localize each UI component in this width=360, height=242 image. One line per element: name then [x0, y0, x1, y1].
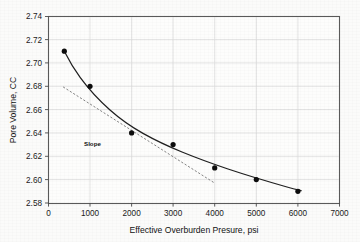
- x-tick-label: 3000: [164, 209, 183, 218]
- x-tick-label: 1000: [81, 209, 100, 218]
- y-tick-label: 2.70: [26, 59, 42, 68]
- data-point: [212, 165, 217, 170]
- data-point: [87, 84, 92, 89]
- data-point: [254, 177, 259, 182]
- x-tick-label: 4000: [206, 209, 225, 218]
- y-tick-label: 2.72: [26, 36, 42, 45]
- x-tick-label: 7000: [330, 209, 349, 218]
- y-tick-label: 2.68: [26, 82, 42, 91]
- pore-volume-vs-overburden-pressure-chart: 0 1000 2000 3000 4000 5000 6000 7000 2.5…: [0, 0, 360, 242]
- x-tick-label: 6000: [289, 209, 308, 218]
- y-tick-label: 2.64: [26, 129, 42, 138]
- x-axis-title: Effective Overburden Presure, psi: [130, 225, 259, 235]
- y-tick-label: 2.66: [26, 106, 42, 115]
- data-point: [171, 142, 176, 147]
- x-tick-label: 0: [46, 209, 51, 218]
- y-tick-label: 2.62: [26, 152, 42, 161]
- y-tick-label: 2.74: [26, 12, 42, 21]
- data-point: [129, 130, 134, 135]
- x-tick-label: 5000: [247, 209, 266, 218]
- y-tick-label: 2.58: [26, 199, 42, 208]
- slope-annotation-label: Slope: [84, 140, 101, 147]
- plot-area-frame: [49, 17, 340, 204]
- x-tick-labels: 0 1000 2000 3000 4000 5000 6000 7000: [46, 209, 349, 218]
- data-point: [295, 189, 300, 194]
- data-point: [62, 49, 67, 54]
- chart-page: 0 1000 2000 3000 4000 5000 6000 7000 2.5…: [0, 0, 360, 242]
- x-tick-label: 2000: [122, 209, 141, 218]
- y-axis-title: Pore Volume, CC: [8, 77, 18, 143]
- y-tick-labels: 2.58 2.60 2.62 2.64 2.66 2.68 2.70 2.72 …: [26, 12, 42, 208]
- y-tick-label: 2.60: [26, 176, 42, 185]
